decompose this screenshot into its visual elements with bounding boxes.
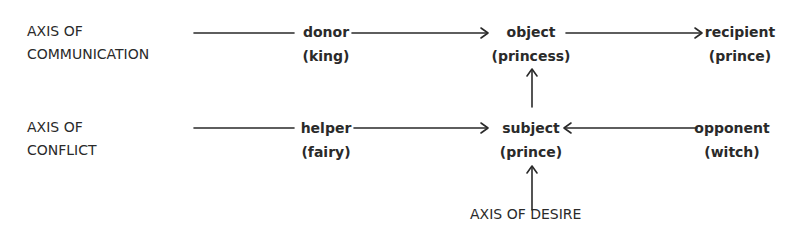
connectors — [0, 0, 794, 238]
